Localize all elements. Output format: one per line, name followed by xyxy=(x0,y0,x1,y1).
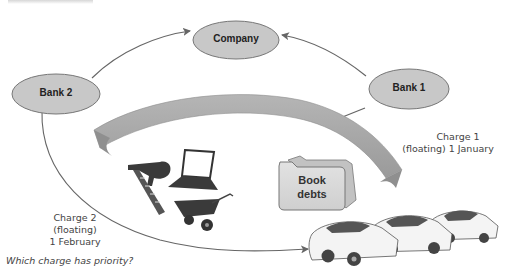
charge1-line1: Charge 1 xyxy=(408,131,508,143)
charge1-caption: Charge 1 (floating) 1 January xyxy=(408,131,508,155)
book-debts-line1: Book xyxy=(279,173,345,187)
cars-icon xyxy=(309,210,498,266)
charge2-caption: Charge 2 (floating) 1 February xyxy=(45,212,105,248)
book-debts-label: Book debts xyxy=(279,173,345,201)
arrow-bank2-to-company xyxy=(92,31,190,78)
charge2-line3: 1 February xyxy=(45,236,105,248)
wheelbarrow-icon xyxy=(174,194,233,231)
nail-gun-icon xyxy=(128,162,171,215)
charge2-line1: Charge 2 xyxy=(45,212,105,224)
charge2-line2: (floating) xyxy=(45,224,105,236)
priority-question: Which charge has priority? xyxy=(6,255,133,266)
bank1-label: Bank 1 xyxy=(369,82,449,93)
company-label: Company xyxy=(193,33,279,44)
bank2-label: Bank 2 xyxy=(12,87,100,98)
laptop-icon xyxy=(168,150,218,190)
arrow-bank1-to-company xyxy=(282,35,366,76)
book-debts-line2: debts xyxy=(279,187,345,201)
charge1-line2: (floating) 1 January xyxy=(386,143,508,155)
